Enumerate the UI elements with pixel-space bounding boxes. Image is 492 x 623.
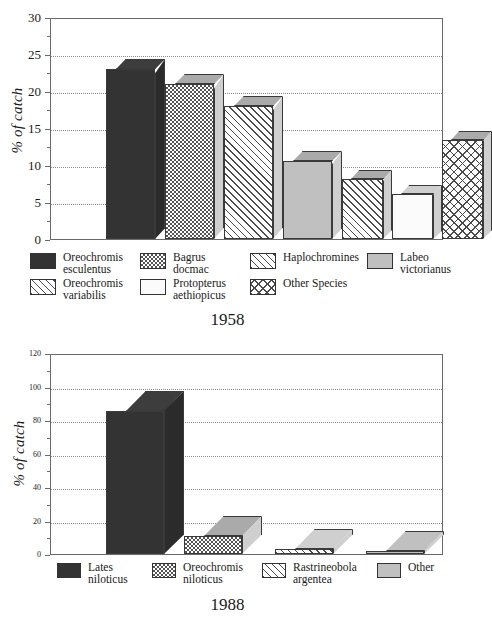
legend-swatch-icon: [250, 253, 276, 269]
y-tick-label: 15: [0, 121, 41, 137]
y-tick-label: 120: [0, 349, 41, 358]
legend-swatch-icon: [262, 563, 286, 578]
y-tick-label: 25: [0, 47, 41, 63]
bar-lates-niloticus: [106, 391, 184, 554]
legend-item-protopterus-aethiopicus[interactable]: Protopterus aethiopicus: [140, 278, 226, 301]
legend-item-oreochromis-variabilis[interactable]: Oreochromis variabilis: [30, 278, 123, 301]
legend-label: Oreochromis niloticus: [183, 562, 243, 585]
gridline: [51, 56, 442, 57]
legend-label: Lates niloticus: [88, 562, 128, 585]
y-tick-label: 0: [0, 550, 41, 559]
y-tick: [45, 555, 50, 556]
plot-area-1988: [50, 354, 443, 555]
bar-protopterus-aethiopicus: [392, 185, 442, 239]
y-tick: [45, 18, 50, 19]
y-tick-minor: [47, 371, 50, 372]
y-tick-minor: [47, 73, 50, 74]
legend-label: Rastrineobola argentea: [293, 562, 357, 585]
y-tick: [45, 55, 50, 56]
y-tick-label: 100: [0, 383, 41, 392]
y-tick-minor: [47, 221, 50, 222]
legend-item-other-species[interactable]: Other Species: [250, 278, 347, 295]
y-tick: [45, 388, 50, 389]
y-tick: [45, 522, 50, 523]
legend-item-other[interactable]: Other: [377, 562, 434, 578]
legend-swatch-icon: [30, 253, 56, 269]
y-tick-minor: [47, 505, 50, 506]
y-tick-minor: [47, 404, 50, 405]
plot-area-1958: [50, 18, 443, 240]
year-label-1958: 1958: [0, 310, 455, 330]
y-tick: [45, 354, 50, 355]
gridline: [51, 389, 442, 390]
y-tick-label: 40: [0, 483, 41, 492]
bar-other: [366, 531, 444, 554]
y-tick-label: 10: [0, 158, 41, 174]
legend-label: Labeo victorianus: [400, 252, 451, 275]
bar-rastrineobola-argentea: [275, 529, 353, 554]
y-tick: [45, 488, 50, 489]
legend-item-oreochromis-esculentus[interactable]: Oreochromis esculentus: [30, 252, 123, 275]
legend-label: Other Species: [283, 278, 347, 290]
y-tick: [45, 240, 50, 241]
y-tick: [45, 92, 50, 93]
legend-swatch-icon: [30, 279, 56, 295]
y-tick-label: 30: [0, 10, 41, 26]
y-tick-minor: [47, 184, 50, 185]
y-tick-label: 0: [0, 232, 41, 248]
y-tick: [45, 166, 50, 167]
bar-other-species: [442, 131, 492, 239]
y-tick-label: 20: [0, 517, 41, 526]
legend-1958: Oreochromis esculentus Bagrus docmac Hap…: [30, 250, 455, 302]
y-tick-minor: [47, 147, 50, 148]
y-tick-label: 20: [0, 84, 41, 100]
y-tick: [45, 421, 50, 422]
y-tick-minor: [47, 471, 50, 472]
y-tick: [45, 455, 50, 456]
bar-oreochromis-niloticus: [184, 516, 262, 554]
legend-label: Bagrus docmac: [173, 252, 209, 275]
legend-item-labeo-victorianus[interactable]: Labeo victorianus: [367, 252, 451, 275]
legend-item-bagrus-docmac[interactable]: Bagrus docmac: [140, 252, 209, 275]
chart-1958: % of catch: [0, 0, 455, 340]
legend-label: Protopterus aethiopicus: [173, 278, 226, 301]
y-tick-minor: [47, 438, 50, 439]
y-tick: [45, 129, 50, 130]
legend-swatch-icon: [367, 253, 393, 269]
legend-item-oreochromis-niloticus[interactable]: Oreochromis niloticus: [152, 562, 243, 585]
y-tick-label: 5: [0, 195, 41, 211]
legend-1988: Lates niloticus Oreochromis niloticus Ra…: [57, 562, 455, 592]
legend-swatch-icon: [250, 279, 276, 295]
legend-swatch-icon: [140, 253, 166, 269]
legend-item-rastrineobola-argentea[interactable]: Rastrineobola argentea: [262, 562, 357, 585]
chart-1988: % of catch: [0, 340, 455, 623]
legend-swatch-icon: [152, 563, 176, 578]
y-tick-minor: [47, 110, 50, 111]
legend-item-lates-niloticus[interactable]: Lates niloticus: [57, 562, 128, 585]
y-tick-label: 80: [0, 416, 41, 425]
y-tick: [45, 203, 50, 204]
legend-label: Oreochromis variabilis: [63, 278, 123, 301]
y-tick-label: 60: [0, 450, 41, 459]
legend-swatch-icon: [57, 563, 81, 578]
bar-bagrus-docmac: [165, 74, 224, 239]
y-tick-minor: [47, 538, 50, 539]
legend-swatch-icon: [377, 563, 401, 578]
legend-item-haplochromines[interactable]: Haplochromines: [250, 252, 359, 269]
legend-swatch-icon: [140, 279, 166, 295]
bar-haplochromines: [342, 170, 392, 239]
legend-label: Oreochromis esculentus: [63, 252, 123, 275]
year-label-1988: 1988: [0, 595, 455, 615]
bar-oreochromis-esculentus: [106, 59, 165, 239]
legend-label: Haplochromines: [283, 252, 359, 264]
bar-labeo-victorianus: [283, 151, 342, 239]
y-tick-minor: [47, 36, 50, 37]
legend-label: Other: [408, 562, 434, 574]
bar-oreochromis-variabilis: [224, 96, 283, 239]
